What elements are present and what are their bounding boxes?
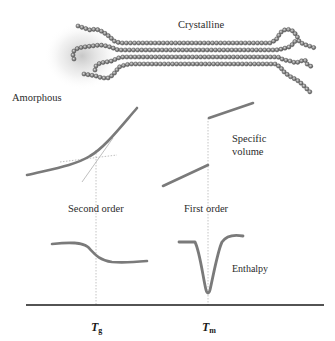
chain-bead (168, 48, 172, 52)
chain-bead (252, 62, 256, 66)
chain-bead (170, 55, 174, 59)
chain-bead (308, 44, 312, 48)
chain-bead (145, 55, 149, 59)
chain-bead (86, 73, 90, 77)
chain-bead (230, 48, 234, 52)
chain-bead (232, 62, 236, 66)
chain-bead (195, 62, 199, 66)
chain-bead (248, 55, 252, 59)
chain-bead (149, 41, 153, 45)
chain-bead (248, 62, 252, 66)
chain-bead (227, 41, 231, 45)
chain-bead (133, 55, 137, 59)
chain-bead (256, 55, 260, 59)
chain-bead (134, 62, 138, 66)
chain-bead (264, 55, 268, 59)
chain-bead (94, 74, 98, 78)
chain-bead (271, 48, 275, 52)
chain-bead (99, 43, 103, 47)
chain-bead (239, 41, 243, 45)
chain-bead (123, 48, 127, 52)
chain-bead (83, 45, 87, 49)
chain-bead (88, 28, 92, 32)
chain-bead (242, 48, 246, 52)
chain-bead (279, 47, 283, 51)
chain-bead (272, 55, 276, 59)
chain-bead (84, 26, 88, 30)
chain-bead (275, 48, 279, 52)
chain-bead (254, 48, 258, 52)
chain-bead (235, 55, 239, 59)
chain-bead (157, 41, 161, 45)
chain-bead (162, 62, 166, 66)
chain-bead (146, 62, 150, 66)
chain-bead (206, 41, 210, 45)
chain-bead (141, 41, 145, 45)
chain-bead (103, 44, 107, 48)
chain-bead (112, 39, 116, 43)
chain-bead (202, 41, 206, 45)
chain-bead (131, 48, 135, 52)
second-order-label: Second order (68, 203, 124, 215)
chain-bead (288, 59, 292, 63)
chain-bead (80, 25, 84, 29)
chain-bead (82, 72, 86, 76)
chain-bead (286, 27, 290, 31)
chain-bead (260, 41, 264, 45)
tg-subscript: g (98, 326, 102, 335)
chain-bead (117, 56, 121, 60)
chain-bead (224, 62, 228, 66)
chain-bead (181, 48, 185, 52)
chain-bead (172, 48, 176, 52)
chain-bead (137, 55, 141, 59)
chain-bead (215, 55, 219, 59)
chain-bead (216, 62, 220, 66)
chain-bead (156, 48, 160, 52)
specific-volume-curve-tg (27, 108, 137, 175)
chain-bead (170, 62, 174, 66)
chain-bead (268, 55, 272, 59)
chain-bead (174, 55, 178, 59)
chain-bead (101, 60, 105, 64)
chain-bead (194, 55, 198, 59)
chain-bead (124, 41, 128, 45)
chain-bead (211, 55, 215, 59)
chain-bead (142, 62, 146, 66)
chain-bead (182, 41, 186, 45)
chain-bead (240, 62, 244, 66)
chain-bead (166, 62, 170, 66)
chain-bead (210, 41, 214, 45)
chain-bead (72, 57, 76, 61)
chain-bead (97, 61, 101, 65)
chain-bead (269, 62, 273, 66)
chain-bead (197, 48, 201, 52)
chain-bead (207, 62, 211, 66)
chain-bead (186, 41, 190, 45)
chain-bead (199, 62, 203, 66)
chain-bead (191, 62, 195, 66)
chain-bead (127, 48, 131, 52)
chain-bead (222, 48, 226, 52)
chain-bead (129, 62, 133, 66)
chain-bead (244, 55, 248, 59)
chain-bead (176, 48, 180, 52)
chain-bead (175, 62, 179, 66)
tm-axis-label: Tm (202, 320, 216, 335)
chain-bead (187, 62, 191, 66)
chain-bead (125, 62, 129, 66)
chain-bead (119, 48, 123, 52)
chain-bead (128, 41, 132, 45)
chain-bead (250, 48, 254, 52)
chain-bead (152, 48, 156, 52)
chain-bead (189, 48, 193, 52)
chain-bead (138, 62, 142, 66)
chain-bead (258, 48, 262, 52)
chain-bead (102, 76, 106, 80)
chain-bead (153, 55, 157, 59)
chain-bead (190, 55, 194, 59)
chain-bead (261, 62, 265, 66)
chain-bead (185, 48, 189, 52)
chain-bead (194, 41, 198, 45)
chain-bead (111, 46, 115, 50)
specific-volume-segment-melt (209, 103, 253, 118)
